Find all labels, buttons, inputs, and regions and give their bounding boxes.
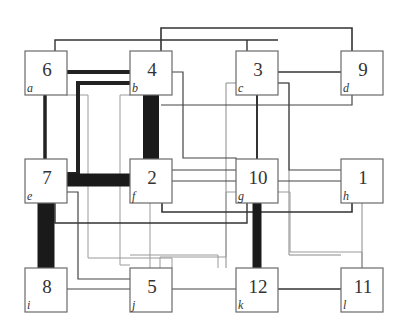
node-letter: a <box>27 81 33 95</box>
node-letter: d <box>343 81 350 95</box>
edge-3-to-11 <box>278 83 341 255</box>
node-2: 2f <box>130 159 172 203</box>
node-number: 7 <box>42 167 52 188</box>
node-1: 1h <box>341 159 383 203</box>
node-number: 11 <box>354 276 372 297</box>
node-4: 4b <box>130 51 172 95</box>
node-letter: c <box>238 81 244 95</box>
node-number: 8 <box>42 276 52 297</box>
node-letter: h <box>343 189 349 203</box>
node-8: 8i <box>25 268 67 312</box>
node-11: 11l <box>341 268 383 312</box>
node-10: 10g <box>236 159 278 203</box>
node-letter: k <box>238 298 244 312</box>
node-9: 9d <box>341 51 383 95</box>
node-3: 3c <box>236 51 278 95</box>
edge-6-to-3 <box>55 40 278 51</box>
node-5: 5j <box>130 268 172 312</box>
node-letter: g <box>238 189 244 203</box>
node-number: 6 <box>42 59 52 80</box>
edge-3-to-12 <box>226 83 236 268</box>
node-letter: b <box>132 81 138 95</box>
node-number: 12 <box>249 276 268 297</box>
node-number: 1 <box>358 167 368 188</box>
netlist-diagram: 6a4b3c9d7e2f10g1h8i5j12k11l <box>0 0 410 326</box>
node-6: 6a <box>25 51 67 95</box>
edges-medium <box>55 28 352 289</box>
node-letter: e <box>27 189 33 203</box>
node-number: 5 <box>147 276 157 297</box>
edge-3-to-1 <box>278 83 341 170</box>
node-number: 4 <box>147 59 157 80</box>
node-number: 9 <box>358 59 368 80</box>
node-number: 10 <box>249 167 268 188</box>
node-number: 3 <box>253 59 263 80</box>
node-7: 7e <box>25 159 67 203</box>
node-12: 12k <box>236 268 278 312</box>
node-number: 2 <box>147 167 157 188</box>
node-letter: i <box>27 298 30 312</box>
